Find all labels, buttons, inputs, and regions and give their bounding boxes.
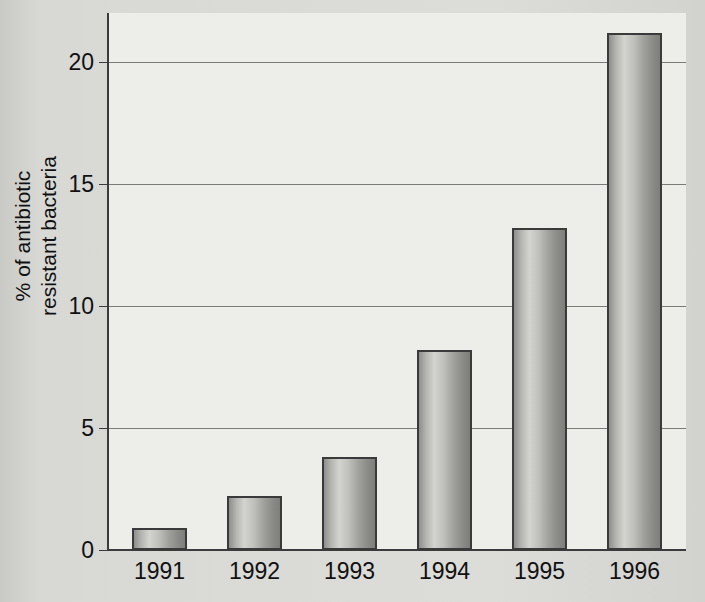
bar-1991 xyxy=(132,528,187,550)
bars-layer xyxy=(108,13,686,550)
bar-1992 xyxy=(227,496,282,550)
x-tick-label-1995: 1995 xyxy=(495,558,585,585)
bar-1993 xyxy=(322,457,377,550)
x-axis-tick-labels: 199119921993199419951996 xyxy=(108,558,686,598)
bar-1994 xyxy=(417,350,472,550)
bar-1996 xyxy=(607,33,662,550)
x-tick-label-1992: 1992 xyxy=(210,558,300,585)
x-tick-label-1994: 1994 xyxy=(400,558,490,585)
y-axis-title: % of antibiotic resistant bacteria xyxy=(10,116,62,356)
x-tick-label-1993: 1993 xyxy=(305,558,395,585)
y-axis-title-wrapper: % of antibiotic resistant bacteria xyxy=(0,0,70,602)
bar-chart-figure: 05101520 199119921993199419951996 % of a… xyxy=(0,0,705,602)
x-tick-label-1996: 1996 xyxy=(590,558,680,585)
x-tick-label-1991: 1991 xyxy=(115,558,205,585)
bar-1995 xyxy=(512,228,567,550)
